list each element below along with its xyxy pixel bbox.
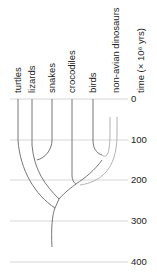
tick-label-400: 400	[131, 257, 147, 267]
tick-label-100: 100	[131, 135, 147, 145]
time-axis-label: time (× 10⁶ yrs)	[136, 28, 146, 93]
extinct-branches	[80, 117, 117, 185]
tick-label-0: 0	[131, 94, 136, 104]
taxon-label-snakes: snakes	[47, 63, 57, 93]
tick-label-200: 200	[131, 175, 147, 185]
cladogram-figure: turtles lizards snakes crocodiles birds …	[0, 0, 157, 278]
phylogeny-branches	[18, 99, 102, 247]
taxon-label-birds: birds	[88, 72, 98, 93]
taxon-label-turtles: turtles	[13, 67, 23, 93]
taxon-label-non-avian-dinosaurs: non-avian dinosaurs	[111, 7, 121, 93]
taxon-label-lizards: lizards	[27, 66, 37, 93]
taxon-label-crocodiles: crocodiles	[67, 50, 77, 93]
tick-label-300: 300	[131, 216, 147, 226]
